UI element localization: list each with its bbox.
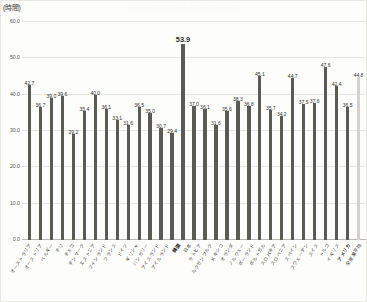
bar-value-label: 36.1 <box>200 105 210 110</box>
bar-slot[interactable]: 39.6 <box>57 22 68 240</box>
bar-slot[interactable]: 29.2 <box>68 22 79 240</box>
bar-slot[interactable]: 53.9 <box>178 22 189 240</box>
bar-slot[interactable]: 33.1 <box>112 22 123 240</box>
bar-value-label: 36.7 <box>36 103 46 108</box>
x-axis-tick-label: 韓国 <box>173 243 182 254</box>
x-axis-label-slot: 全産業平均 <box>353 243 364 301</box>
bar[interactable]: 35.4 <box>83 111 86 240</box>
x-axis-label-slot: アイルランド <box>162 243 173 301</box>
bar-slot[interactable]: 44.8 <box>353 22 364 240</box>
bar[interactable]: 40.0 <box>94 95 97 240</box>
x-axis-label-slot: 韓国 <box>173 243 184 301</box>
bar-value-label: 31.6 <box>211 121 221 126</box>
y-axis-tick-label: 30.0 <box>10 127 20 133</box>
bar[interactable]: 31.6 <box>214 125 217 240</box>
bar-value-label: 40.0 <box>90 91 100 96</box>
bar[interactable]: 45.1 <box>258 76 261 240</box>
bar-slot[interactable]: 35.6 <box>221 22 232 240</box>
y-axis-tick-label: 60.0 <box>10 18 20 24</box>
bar[interactable]: 35.7 <box>269 110 272 240</box>
bar-value-label: 45.1 <box>255 72 265 77</box>
bar-slot[interactable]: 35.4 <box>79 22 90 240</box>
bar-slot[interactable]: 36.8 <box>243 22 254 240</box>
bar-slot[interactable]: 34.2 <box>276 22 287 240</box>
bar[interactable]: 36.5 <box>138 107 141 240</box>
bar-slot[interactable]: 39.0 <box>46 22 57 240</box>
bar[interactable]: 36.8 <box>247 106 250 240</box>
bar[interactable]: 53.9 <box>181 44 184 240</box>
bar-slot[interactable]: 30.7 <box>156 22 167 240</box>
y-axis-tick-label: 0.0 <box>13 236 20 242</box>
watermark-text: 労働時間の国際比較 年間総実労働時間 <box>131 3 238 12</box>
x-axis-labels: オーストラリアオーストリアベルギーチリチェコデンマークエストニアフィンランドフラ… <box>22 243 366 301</box>
bar-slot[interactable]: 36.7 <box>35 22 46 240</box>
bar-value-label: 37.0 <box>189 102 199 107</box>
bar[interactable]: 30.7 <box>159 128 162 240</box>
bar-value-label: 35.6 <box>222 107 232 112</box>
bar-value-label: 44.7 <box>288 74 298 79</box>
bar[interactable]: 44.7 <box>291 78 294 240</box>
bar[interactable]: 31.6 <box>127 125 130 240</box>
bar-value-label: 42.7 <box>25 81 35 86</box>
bar-value-label: 37.6 <box>310 99 320 104</box>
bar-value-label: 35.4 <box>79 107 89 112</box>
bar[interactable]: 36.7 <box>39 107 42 240</box>
bar-slot[interactable]: 47.6 <box>320 22 331 240</box>
bar-value-label: 37.5 <box>299 100 309 105</box>
y-axis-tick-label: 50.0 <box>10 54 20 60</box>
bar[interactable]: 37.5 <box>302 104 305 240</box>
y-axis-unit-label: (時間) <box>3 2 20 12</box>
y-axis-tick-label: 20.0 <box>10 163 20 169</box>
bar-slot[interactable]: 36.1 <box>101 22 112 240</box>
bar-value-label: 36.5 <box>343 103 353 108</box>
bar[interactable]: 34.2 <box>280 116 283 240</box>
bar[interactable]: 36.5 <box>346 107 349 240</box>
bar[interactable]: 35.6 <box>225 111 228 240</box>
bar-slot[interactable]: 37.5 <box>298 22 309 240</box>
bar-slot[interactable]: 36.1 <box>200 22 211 240</box>
bar-value-label: 38.3 <box>233 97 243 102</box>
bar[interactable]: 37.6 <box>313 103 316 240</box>
bar-slot[interactable]: 31.6 <box>210 22 221 240</box>
bar[interactable]: 29.4 <box>170 133 173 240</box>
bar[interactable]: 37.0 <box>192 106 195 240</box>
bar[interactable]: 44.8 <box>357 77 360 240</box>
bar-value-label: 35.7 <box>266 106 276 111</box>
bar-value-label: 47.6 <box>321 63 331 68</box>
bar[interactable]: 47.6 <box>324 67 327 240</box>
bar-slot[interactable]: 31.6 <box>123 22 134 240</box>
bar-slot[interactable]: 45.1 <box>254 22 265 240</box>
y-axis-tick-label: 40.0 <box>10 91 20 97</box>
y-axis-tick-label: 10.0 <box>10 200 20 206</box>
bar[interactable]: 42.4 <box>335 86 338 240</box>
bar-slot[interactable]: 40.0 <box>90 22 101 240</box>
bar-slot[interactable]: 35.7 <box>265 22 276 240</box>
bar-slot[interactable]: 37.6 <box>309 22 320 240</box>
bar-slot[interactable]: 36.5 <box>342 22 353 240</box>
bar[interactable]: 38.3 <box>236 101 239 240</box>
bar-slot[interactable]: 29.4 <box>167 22 178 240</box>
bar-slot[interactable]: 38.3 <box>232 22 243 240</box>
bar[interactable]: 39.0 <box>50 98 53 240</box>
bar-value-label: 42.4 <box>332 82 342 87</box>
bar[interactable]: 42.7 <box>28 85 31 240</box>
bar-value-label: 36.1 <box>101 105 111 110</box>
bar-slot[interactable]: 42.4 <box>331 22 342 240</box>
bar-value-label: 34.2 <box>277 112 287 117</box>
bar-slot[interactable]: 36.5 <box>134 22 145 240</box>
bar-slot[interactable]: 44.7 <box>287 22 298 240</box>
bar-value-label: 29.2 <box>68 130 78 135</box>
bar[interactable]: 35.0 <box>148 113 151 240</box>
plot-area: 0.010.020.030.040.050.060.0 42.736.739.0… <box>22 22 366 240</box>
bar-slot[interactable]: 37.0 <box>189 22 200 240</box>
x-axis-tick-label: スイス <box>308 243 320 258</box>
bar[interactable]: 29.2 <box>72 134 75 240</box>
bar[interactable]: 36.1 <box>105 109 108 240</box>
bar[interactable]: 36.1 <box>203 109 206 240</box>
bar-slot[interactable]: 42.7 <box>24 22 35 240</box>
bar-value-label: 44.8 <box>354 73 364 78</box>
bar[interactable]: 39.6 <box>61 96 64 240</box>
bar-slot[interactable]: 35.0 <box>145 22 156 240</box>
bar[interactable]: 33.1 <box>116 120 119 240</box>
bar-value-label: 30.7 <box>156 124 166 129</box>
